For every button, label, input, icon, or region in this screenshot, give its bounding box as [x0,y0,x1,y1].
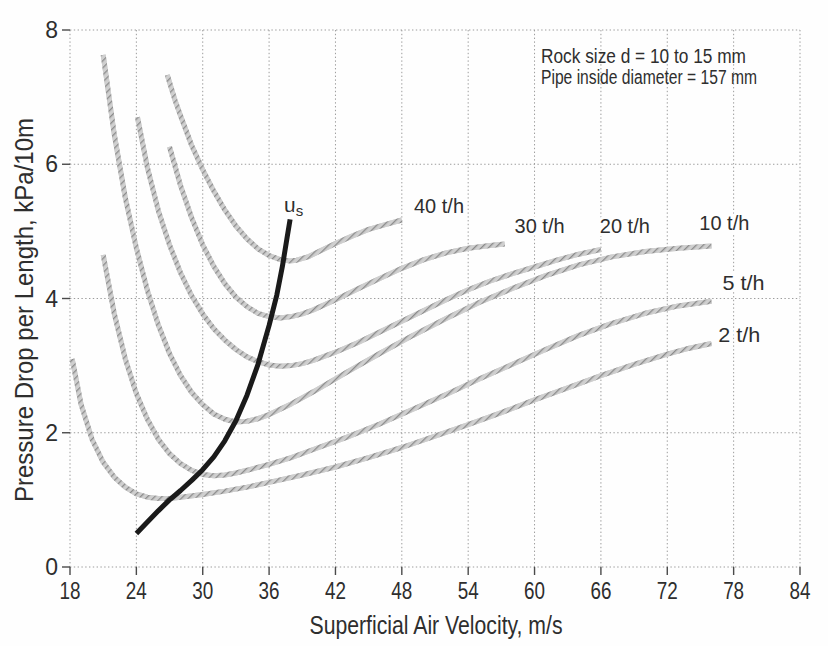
curve-label-5th: 5 t/h [723,271,765,294]
x-tick-label-60: 60 [524,578,545,604]
x-tick-label-72: 72 [657,578,678,604]
x-tick-label-18: 18 [60,578,81,604]
x-tick-label-30: 30 [192,578,213,604]
annotation-rock-size: Rock size d = 10 to 15 mm [541,45,746,67]
curve-label-10th: 10 t/h [699,211,749,234]
curve-label-40th: 40 t/h [414,194,464,217]
y-tick-label-8: 8 [45,17,58,43]
curve-labels: 2 t/h5 t/h10 t/h20 t/h30 t/h40 t/h [414,194,765,346]
x-tick-label-78: 78 [723,578,744,604]
y-tick-label-0: 0 [45,554,58,580]
us-label-base: u [284,193,296,216]
curve-label-30th: 30 t/h [515,214,565,237]
curve-20th [138,117,601,366]
x-tick-label-42: 42 [325,578,346,604]
x-tick-label-36: 36 [259,578,280,604]
pressure-drop-chart: 18243036424854606672788402468 2 t/h5 t/h… [0,0,828,646]
us-label-subscript: s [296,202,304,219]
x-tick-label-66: 66 [590,578,611,604]
curve-label-20th: 20 t/h [600,214,650,237]
curve-5th-base [103,255,711,476]
curve-30th [170,147,505,318]
curve-30th-base [170,147,505,318]
chart-canvas: 18243036424854606672788402468 2 t/h5 t/h… [0,0,828,646]
y-axis-title: Pressure Drop per Length, kPa/10m [10,118,38,502]
curve-label-2th: 2 t/h [718,323,760,346]
curves [72,55,711,534]
us-curve-label: us [284,193,303,219]
curve-20th-base [138,117,601,366]
y-tick-label-6: 6 [45,151,58,177]
y-tick-label-4: 4 [45,286,58,312]
x-tick-label-48: 48 [391,578,412,604]
curve-5th [103,255,711,476]
y-tick-label-2: 2 [45,420,58,446]
annotation-pipe-diameter: Pipe inside diameter = 157 mm [541,66,757,88]
x-tick-label-54: 54 [458,578,479,604]
x-tick-label-24: 24 [126,578,147,604]
x-axis-title: Superficial Air Velocity, m/s [310,611,563,639]
x-tick-label-84: 84 [790,578,811,604]
